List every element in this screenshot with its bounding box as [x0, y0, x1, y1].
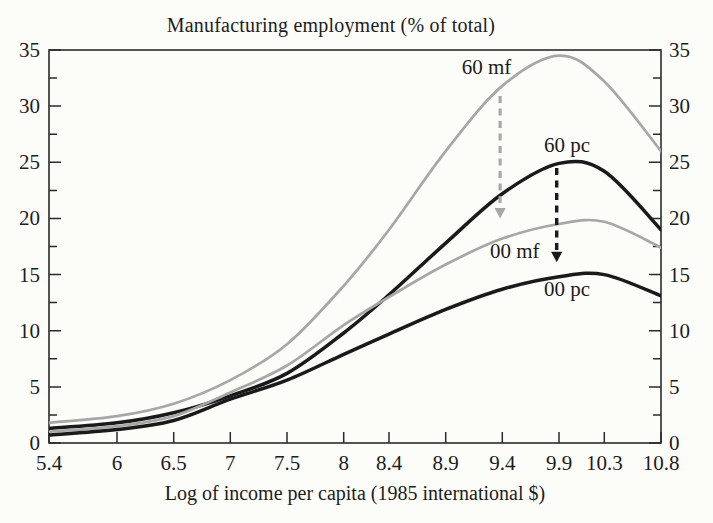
x-tick-label-10.3: 10.3 [576, 450, 632, 476]
x-axis-title: Log of income per capita (1985 internati… [49, 482, 661, 505]
plot-area [0, 0, 713, 523]
plot-frame [49, 50, 661, 443]
y-tick-label-right-15: 15 [669, 262, 713, 288]
y-tick-label-left-25: 25 [0, 149, 40, 175]
x-tick-label-6.5: 6.5 [146, 450, 202, 476]
curve-60-pc [49, 161, 661, 428]
y-tick-label-right-35: 35 [669, 37, 713, 63]
y-tick-label-right-20: 20 [669, 205, 713, 231]
x-tick-label-10.8: 10.8 [633, 450, 689, 476]
y-tick-label-right-10: 10 [669, 318, 713, 344]
x-tick-label-5.4: 5.4 [21, 450, 77, 476]
y-tick-label-left-15: 15 [0, 262, 40, 288]
y-tick-label-right-25: 25 [669, 149, 713, 175]
x-tick-label-8.4: 8.4 [361, 450, 417, 476]
x-tick-label-6: 6 [89, 450, 145, 476]
x-tick-label-7.5: 7.5 [259, 450, 315, 476]
x-tick-label-7: 7 [202, 450, 258, 476]
x-tick-label-8.9: 8.9 [418, 450, 474, 476]
y-tick-label-left-5: 5 [0, 374, 40, 400]
y-tick-label-right-5: 5 [669, 374, 713, 400]
y-tick-label-left-10: 10 [0, 318, 40, 344]
arrow-head-drop-60pc-to-00pc [551, 252, 562, 263]
y-tick-label-left-30: 30 [0, 93, 40, 119]
axis-ticks [49, 50, 661, 443]
arrow-head-drop-60mf-to-00mf [495, 208, 506, 219]
y-tick-label-left-35: 35 [0, 37, 40, 63]
y-tick-label-right-30: 30 [669, 93, 713, 119]
y-tick-label-left-20: 20 [0, 205, 40, 231]
x-tick-label-9.4: 9.4 [474, 450, 530, 476]
curve-60-mf [49, 56, 661, 423]
figure: Manufacturing employment (% of total) Lo… [0, 0, 713, 523]
